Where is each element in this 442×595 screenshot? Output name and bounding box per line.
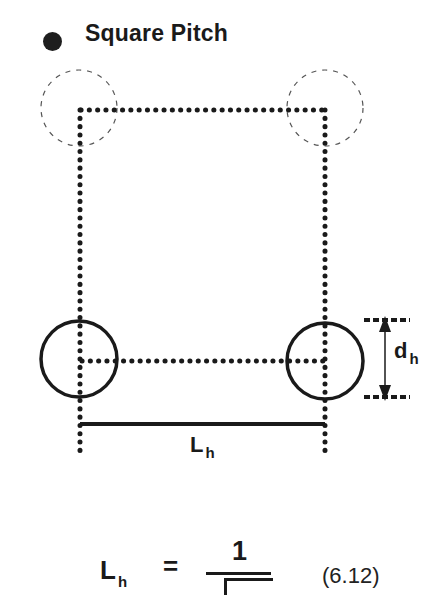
arrow-down-icon: [379, 385, 391, 401]
arrow-up-icon: [379, 316, 391, 332]
fraction-bar: [206, 572, 271, 575]
pitch-label: Lh: [190, 432, 215, 461]
equation-numerator: 1: [232, 536, 247, 567]
equation-reference: (6.12): [322, 563, 379, 589]
sqrt-radical-icon: [224, 578, 273, 595]
equation-lhs: Lh: [100, 555, 127, 590]
diameter-label: dh: [394, 338, 419, 367]
pitch-square-outline: [80, 110, 325, 452]
equation-equals: =: [163, 551, 178, 582]
